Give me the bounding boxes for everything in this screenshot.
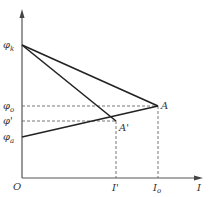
diagram-canvas: φk φo φ' φa A A' O I' Io I — [0, 0, 210, 197]
label-phi-prime: φ' — [3, 115, 13, 126]
label-phi-o: φo — [3, 100, 14, 114]
line-phi-k-to-A — [22, 45, 158, 106]
label-point-A-prime: A' — [118, 122, 129, 133]
label-origin: O — [13, 181, 21, 192]
line-phi-a-to-A — [22, 106, 158, 137]
line-phi-k-to-A-prime — [22, 45, 116, 121]
label-I-o: Io — [152, 182, 161, 195]
x-axis-arrow-icon — [194, 176, 203, 181]
label-phi-k: φk — [3, 39, 14, 53]
label-phi-a: φa — [3, 131, 14, 145]
label-I-prime: I' — [111, 182, 119, 193]
y-axis-arrow-icon — [20, 9, 25, 18]
label-x-axis-I: I — [196, 182, 202, 193]
label-point-A: A — [160, 100, 168, 111]
